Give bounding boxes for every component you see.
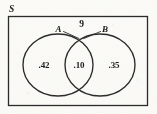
venn-diagram-figure: S 9 A B .42 .10 .35 [0, 0, 157, 114]
region-value-b-only: .35 [109, 60, 121, 70]
set-b-leader-line [84, 32, 101, 39]
outside-count-label: 9 [79, 19, 84, 29]
set-a-label: A [54, 24, 61, 34]
region-value-a-only: .42 [39, 60, 51, 70]
venn-diagram-canvas: S 9 A B .42 .10 .35 [0, 0, 157, 114]
set-b-label: B [101, 24, 108, 34]
universal-set-label: S [9, 4, 14, 14]
region-value-intersection: .10 [74, 60, 86, 70]
